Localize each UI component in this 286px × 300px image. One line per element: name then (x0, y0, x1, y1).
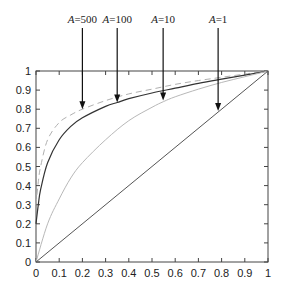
series-line-a-100 (36, 71, 268, 224)
y-tick-label: 0.3 (16, 199, 31, 211)
line-chart: 00.10.20.30.40.50.60.70.80.9100.10.20.30… (0, 0, 286, 300)
y-tick-label: 0.1 (16, 237, 31, 249)
series-line-a-500 (36, 71, 268, 205)
y-tick-label: 0 (25, 256, 31, 268)
curve-annotations: A=500A=100A=10A=1 (67, 13, 228, 111)
y-tick-label: 0.7 (16, 122, 31, 134)
y-tick-label: 0.2 (16, 218, 31, 230)
x-tick-label: 0.3 (98, 267, 113, 279)
arrowhead-icon (160, 93, 166, 101)
annotation-label: A=100 (101, 13, 132, 25)
y-tick-label: 0.4 (16, 180, 31, 192)
x-tick-label: 0.4 (121, 267, 136, 279)
x-tick-label: 0 (33, 267, 39, 279)
series-lines (36, 71, 268, 262)
x-tick-label: 0.6 (168, 267, 183, 279)
x-tick-label: 0.7 (191, 267, 206, 279)
y-tick-label: 0.5 (16, 161, 31, 173)
y-tick-label: 0.9 (16, 84, 31, 96)
annotation-label: A=500 (67, 13, 98, 25)
x-tick-label: 0.1 (52, 267, 67, 279)
y-tick-label: 0.8 (16, 103, 31, 115)
x-tick-label: 0.9 (237, 267, 252, 279)
arrowhead-icon (79, 101, 85, 109)
y-tick-label: 1 (25, 65, 31, 77)
x-tick-label: 0.5 (144, 267, 159, 279)
annotation-label: A=1 (208, 13, 227, 25)
y-tick-label: 0.6 (16, 141, 31, 153)
annotation-label: A=10 (150, 13, 175, 25)
x-tick-label: 1 (265, 267, 271, 279)
x-tick-label: 0.2 (75, 267, 90, 279)
series-line-a-1 (36, 71, 268, 262)
x-tick-label: 0.8 (214, 267, 229, 279)
